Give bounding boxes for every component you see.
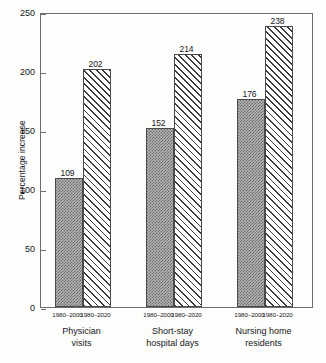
category-label-3: Nursing homeresidents <box>209 326 319 349</box>
x-tick-label: 1980–2020 <box>77 311 115 318</box>
bar-value-label: 152 <box>145 118 173 128</box>
y-tick-mark <box>41 73 46 74</box>
bar-1-2 <box>83 69 111 307</box>
bar-value-label: 202 <box>82 59 110 69</box>
y-tick-label: 250 <box>7 8 35 18</box>
bar-value-label: 109 <box>54 168 82 178</box>
y-tick-mark <box>41 309 46 310</box>
plot-area: 250200150100500 <box>40 13 313 308</box>
y-tick-label: 50 <box>7 244 35 254</box>
y-tick-label: 200 <box>7 67 35 77</box>
bar-2-1 <box>146 128 174 307</box>
x-tick-label: 1980–2020 <box>259 311 297 318</box>
bar-value-label: 238 <box>264 16 292 26</box>
y-tick-label: 100 <box>7 185 35 195</box>
category-label-line2: residents <box>209 338 319 350</box>
y-tick-label: 150 <box>7 126 35 136</box>
bar-value-label: 176 <box>236 89 264 99</box>
bar-3-2 <box>265 26 293 307</box>
bar-3-1 <box>237 99 265 307</box>
bar-value-label: 214 <box>173 44 201 54</box>
y-tick-mark <box>41 250 46 251</box>
x-tick-label: 1980–2020 <box>168 311 206 318</box>
bar-chart-figure: Percentage increase 250200150100500 1092… <box>0 0 326 363</box>
y-tick-mark <box>41 14 46 15</box>
y-tick-mark <box>41 191 46 192</box>
bar-2-2 <box>174 54 202 307</box>
y-tick-label: 0 <box>7 303 35 313</box>
y-axis-title: Percentage increase <box>17 85 27 235</box>
category-label-line1: Nursing home <box>209 326 319 338</box>
bar-1-1 <box>55 178 83 307</box>
y-tick-mark <box>41 132 46 133</box>
